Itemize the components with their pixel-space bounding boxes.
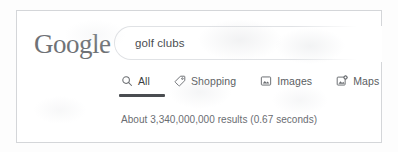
tab-label: All [138, 75, 150, 87]
google-logo: Google [34, 31, 110, 58]
search-tabs: All Shopping [121, 75, 379, 93]
map-pin-icon [336, 75, 348, 87]
search-results-card: Google golf clubs All [16, 10, 382, 143]
tab-images[interactable]: Images [260, 75, 312, 93]
search-box[interactable]: golf clubs [114, 26, 382, 60]
tab-label: Images [277, 75, 312, 87]
image-icon [260, 75, 272, 87]
tab-label: Maps [353, 75, 379, 87]
tab-shopping[interactable]: Shopping [174, 75, 236, 93]
tag-icon [174, 75, 186, 87]
google-search-header-screenshot: Google golf clubs All [0, 0, 398, 152]
tab-maps[interactable]: Maps [336, 75, 379, 93]
tab-all[interactable]: All [121, 75, 150, 93]
tab-label: Shopping [191, 75, 236, 87]
search-input[interactable]: golf clubs [135, 37, 185, 49]
search-icon [121, 75, 133, 87]
active-tab-underline [119, 94, 165, 97]
result-stats: About 3,340,000,000 results (0.67 second… [121, 114, 317, 125]
